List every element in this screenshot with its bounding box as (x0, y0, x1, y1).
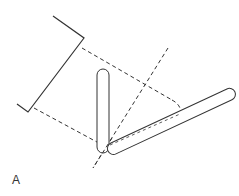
vertical-rod (97, 69, 109, 153)
panel-label: A (12, 174, 20, 186)
projection-line-upper (82, 48, 172, 100)
projection-diagram (0, 0, 239, 196)
tilted-rod (105, 86, 237, 156)
projection-plane (17, 16, 84, 112)
